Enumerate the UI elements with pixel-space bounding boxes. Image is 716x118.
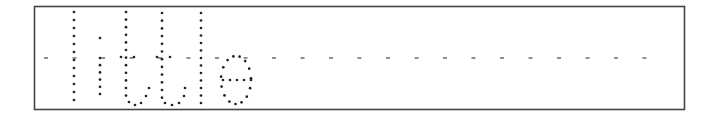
dotted-word-little	[73, 11, 253, 107]
tracing-sheet	[0, 0, 716, 118]
